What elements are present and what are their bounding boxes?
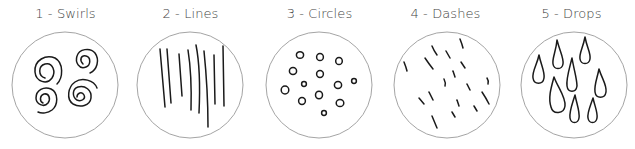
plate-circle [394,32,500,138]
plate-circle [266,32,372,138]
lines-pattern-icon [127,0,254,149]
plate-circle [12,32,118,138]
swirls-pattern-icon [2,0,129,149]
panel-circles: 3 - Circles [256,0,383,149]
plate-circle [137,32,243,138]
dashes-pattern-icon [382,0,509,149]
circles-pattern-icon [256,0,383,149]
panel-swirls: 1 - Swirls [2,0,129,149]
panel-drops: 5 - Drops [508,0,635,149]
panel-dashes: 4 - Dashes [382,0,509,149]
drops-pattern-icon [508,0,635,149]
line [223,46,224,106]
panel-lines: 2 - Lines [127,0,254,149]
line [214,55,215,104]
